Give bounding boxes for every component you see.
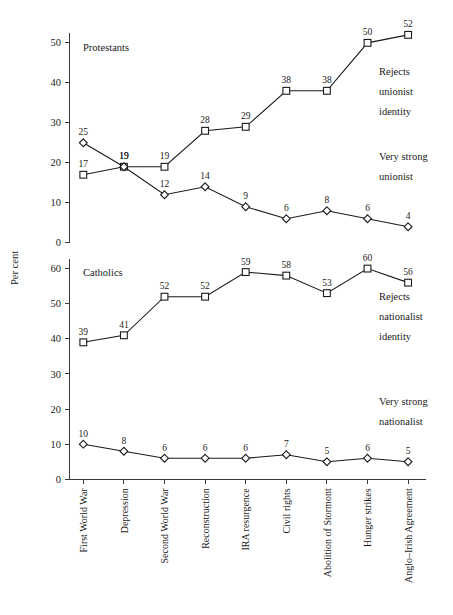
data-value-label: 39 xyxy=(79,327,89,337)
data-point-diamond-marker xyxy=(201,454,209,462)
series-line-diamond xyxy=(83,143,408,227)
series-annotation-line: unionist xyxy=(379,171,413,182)
x-axis-category-label: Civil rights xyxy=(281,488,292,533)
data-value-label: 38 xyxy=(322,75,332,85)
y-axis-tick-label: 0 xyxy=(56,474,61,485)
series-annotation-line: unionist xyxy=(379,86,413,97)
data-point-square-marker xyxy=(202,127,209,134)
x-axis-category-label: Anglo–Irish Agreement xyxy=(403,488,414,583)
series-annotation-line: nationalist xyxy=(379,311,423,322)
data-value-label: 6 xyxy=(203,443,208,453)
series-annotation-line: nationalist xyxy=(379,416,423,427)
data-value-label: 50 xyxy=(363,27,373,37)
series-line-square xyxy=(83,269,408,343)
data-value-label: 6 xyxy=(162,443,167,453)
data-point-diamond-marker xyxy=(282,215,290,223)
x-axis-category-label: Hunger strikes xyxy=(362,488,373,547)
data-point-square-marker xyxy=(324,87,331,94)
x-axis-category-label: Reconstruction xyxy=(200,488,211,549)
y-axis-tick-label: 50 xyxy=(51,298,62,309)
series-line-square xyxy=(83,35,408,175)
chart-figure: 01020304050Protestants171919282938385052… xyxy=(0,0,453,615)
data-value-label: 12 xyxy=(160,179,170,189)
x-axis: First World WarDepressionSecond World Wa… xyxy=(69,479,426,583)
x-axis-category-label: IRA resurgence xyxy=(241,488,252,551)
y-axis-tick-label: 50 xyxy=(51,37,62,48)
data-point-square-marker xyxy=(405,279,412,286)
series-annotation-line: Rejects xyxy=(379,291,410,302)
data-value-label: 58 xyxy=(282,260,292,270)
y-axis-tick-label: 40 xyxy=(51,77,62,88)
data-point-square-marker xyxy=(161,163,168,170)
data-point-square-marker xyxy=(242,269,249,276)
data-value-label: 29 xyxy=(241,111,251,121)
data-point-diamond-marker xyxy=(323,458,331,466)
y-axis-tick-label: 20 xyxy=(51,157,62,168)
panel-title-protestants: Protestants xyxy=(83,42,129,53)
panel-protestants: 01020304050Protestants171919282938385052… xyxy=(51,19,429,248)
y-axis-tick-label: 20 xyxy=(51,404,62,415)
data-value-label: 52 xyxy=(160,281,170,291)
data-point-diamond-marker xyxy=(79,139,87,147)
data-value-label: 17 xyxy=(79,159,89,169)
series-annotation-line: identity xyxy=(379,331,412,342)
series-annotation-line: Very strong xyxy=(379,151,428,162)
data-value-label: 8 xyxy=(325,195,330,205)
series-annotation-line: Very strong xyxy=(379,396,428,407)
data-point-diamond-marker xyxy=(120,447,128,455)
data-point-diamond-marker xyxy=(364,215,372,223)
data-point-diamond-marker xyxy=(404,458,412,466)
data-value-label: 56 xyxy=(403,267,413,277)
y-axis-tick-label: 30 xyxy=(51,117,62,128)
y-axis-title: Per cent xyxy=(9,251,20,285)
data-point-square-marker xyxy=(161,293,168,300)
data-point-diamond-marker xyxy=(404,223,412,231)
data-point-square-marker xyxy=(242,123,249,130)
data-point-diamond-marker xyxy=(242,203,250,211)
data-value-label: 10 xyxy=(79,429,89,439)
data-point-square-marker xyxy=(364,265,371,272)
data-value-label: 52 xyxy=(403,19,413,29)
data-value-label: 7 xyxy=(284,439,289,449)
data-value-label: 6 xyxy=(365,203,370,213)
data-point-square-marker xyxy=(80,339,87,346)
data-point-square-marker xyxy=(283,272,290,279)
data-value-label: 19 xyxy=(160,151,170,161)
data-point-square-marker xyxy=(80,171,87,178)
data-point-diamond-marker xyxy=(282,451,290,459)
x-axis-category-label: First World War xyxy=(78,488,89,553)
data-point-diamond-marker xyxy=(364,454,372,462)
data-value-label: 28 xyxy=(200,115,210,125)
data-point-square-marker xyxy=(405,31,412,38)
data-value-label: 4 xyxy=(406,211,411,221)
series-annotation-line: identity xyxy=(379,106,412,117)
data-value-label: 38 xyxy=(282,75,292,85)
data-value-label: 59 xyxy=(241,257,251,267)
data-value-label: 5 xyxy=(406,446,411,456)
data-point-diamond-marker xyxy=(161,454,169,462)
data-point-diamond-marker xyxy=(201,183,209,191)
y-axis-tick-label: 10 xyxy=(51,439,62,450)
data-value-label: 6 xyxy=(365,443,370,453)
data-value-label: 25 xyxy=(79,127,89,137)
y-axis-tick-label: 40 xyxy=(51,333,62,344)
data-point-square-marker xyxy=(324,290,331,297)
y-axis-tick-label: 0 xyxy=(56,237,61,248)
data-value-label: 19 xyxy=(119,151,129,161)
panel-title-catholics: Catholics xyxy=(83,267,123,278)
data-point-diamond-marker xyxy=(242,454,250,462)
data-value-label: 53 xyxy=(322,278,332,288)
line-chart-svg: 01020304050Protestants171919282938385052… xyxy=(0,0,453,615)
data-value-label: 60 xyxy=(363,253,373,263)
data-point-diamond-marker xyxy=(323,207,331,215)
data-value-label: 14 xyxy=(200,171,210,181)
data-point-diamond-marker xyxy=(79,440,87,448)
data-value-label: 9 xyxy=(243,191,248,201)
series-annotation-line: Rejects xyxy=(379,66,410,77)
data-value-label: 41 xyxy=(119,320,129,330)
y-axis-tick-label: 30 xyxy=(51,369,62,380)
data-value-label: 6 xyxy=(243,443,248,453)
data-point-square-marker xyxy=(121,332,128,339)
panel-catholics: 0102030405060Catholics394152525958536056… xyxy=(51,253,429,485)
data-point-square-marker xyxy=(202,293,209,300)
